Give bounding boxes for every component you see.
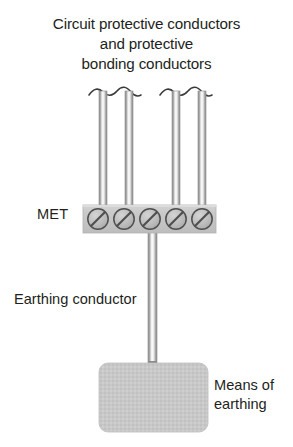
diagram-title: Circuit protective conductors and protec… <box>0 14 293 74</box>
met-screw-terminal-1 <box>88 209 108 229</box>
earthing-conductor <box>148 228 157 366</box>
means-of-earthing-body <box>99 363 208 432</box>
earthing-arrangement-diagram: Circuit protective conductors and protec… <box>0 0 293 447</box>
means-of-earthing-label-line-2: earthing <box>214 395 274 414</box>
earthing-conductor-tube <box>148 228 157 366</box>
conductor-2 <box>125 91 133 208</box>
means-of-earthing-label: Means of earthing <box>214 376 274 414</box>
conductor-1 <box>99 91 107 208</box>
met-terminal-block <box>83 205 216 233</box>
met-block-highlight <box>83 205 216 207</box>
met-screw-terminal-2 <box>114 209 134 229</box>
conductor-pair-left <box>89 87 141 208</box>
title-line-1: Circuit protective conductors <box>0 14 293 34</box>
earthing-conductor-label: Earthing conductor <box>14 291 137 307</box>
conductor-3 <box>172 91 180 208</box>
conductor-4 <box>198 91 206 208</box>
conductor-pair-right <box>160 87 212 208</box>
title-line-3: bonding conductors <box>0 54 293 74</box>
met-screw-terminal-5 <box>192 209 212 229</box>
title-line-2: and protective <box>0 34 293 54</box>
means-of-earthing-block <box>99 363 208 432</box>
means-of-earthing-label-line-1: Means of <box>214 376 274 395</box>
met-screw-terminal-3 <box>140 209 160 229</box>
met-screw-terminal-4 <box>166 209 186 229</box>
met-label: MET <box>37 206 68 222</box>
